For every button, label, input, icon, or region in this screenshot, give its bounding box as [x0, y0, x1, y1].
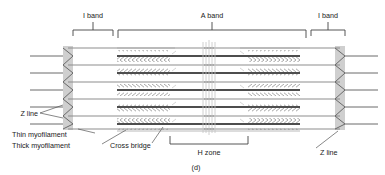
label-cross-bridge: Cross bridge: [110, 141, 151, 150]
label-z-line-left: Z line: [20, 109, 38, 118]
sarcomere-diagram: I band A band I band H zone Z line Thin …: [0, 0, 385, 175]
label-z-line-right: Z line: [320, 148, 338, 157]
label-h-zone: H zone: [198, 148, 221, 157]
label-a-band: A band: [201, 11, 223, 20]
figure-canvas: I band A band I band H zone Z line Thin …: [0, 0, 385, 175]
panel-label: (d): [192, 163, 201, 172]
label-i-band-right: I band: [318, 11, 338, 20]
label-thin-myofilament: Thin myofilament: [12, 130, 67, 139]
label-thick-myofilament: Thick myofilament: [12, 141, 70, 150]
label-i-band-left: I band: [83, 11, 103, 20]
